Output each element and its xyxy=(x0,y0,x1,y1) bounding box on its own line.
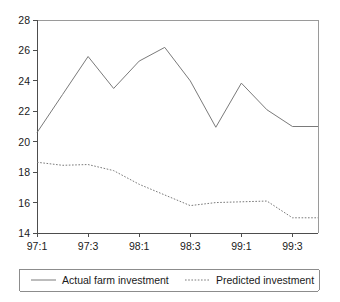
legend-label-actual: Actual farm investment xyxy=(62,274,169,286)
y-tick-label: 20 xyxy=(18,136,30,148)
x-tick-label: 98:3 xyxy=(180,240,201,252)
y-tick-label: 26 xyxy=(18,44,30,56)
legend-label-predicted: Predicted investment xyxy=(216,274,314,286)
x-tick-label: 99:3 xyxy=(282,240,303,252)
y-tick-label: 28 xyxy=(18,14,30,26)
line-chart: 1416182022242628 97:197:398:198:399:199:… xyxy=(0,0,340,302)
y-tick-label: 22 xyxy=(18,105,30,117)
y-tick-label: 24 xyxy=(18,75,30,87)
chart-legend: Actual farm investment Predicted investm… xyxy=(19,269,319,291)
x-tick-label: 97:3 xyxy=(78,240,99,252)
chart-figure: 1416182022242628 97:197:398:198:399:199:… xyxy=(0,0,340,302)
plot-frame xyxy=(37,20,318,233)
y-tick-label: 16 xyxy=(18,197,30,209)
series-line-actual-farm-investment xyxy=(37,47,318,132)
x-tick-label: 98:1 xyxy=(129,240,150,252)
x-tick-label: 97:1 xyxy=(27,240,48,252)
series-group xyxy=(37,47,318,217)
x-axis-ticks: 97:197:398:198:399:199:3 xyxy=(27,233,303,252)
y-tick-label: 14 xyxy=(18,227,30,239)
y-axis-ticks: 1416182022242628 xyxy=(18,14,37,239)
x-tick-label: 99:1 xyxy=(231,240,252,252)
y-tick-label: 18 xyxy=(18,166,30,178)
series-line-predicted-investment xyxy=(37,162,318,218)
